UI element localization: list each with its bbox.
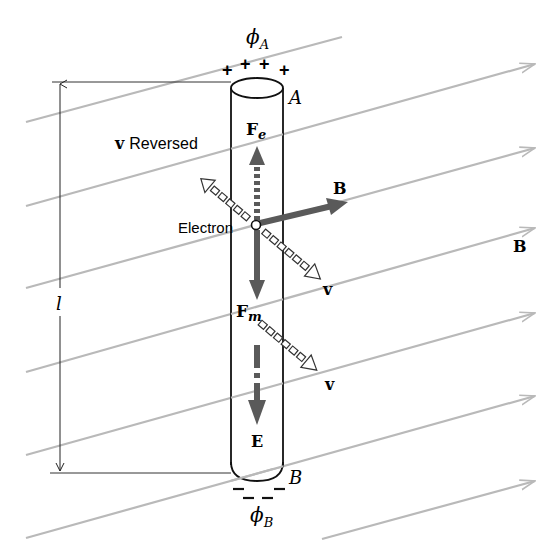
negative-charges: [233, 489, 285, 498]
electron-label: Electron: [178, 219, 233, 236]
field-line-7: [322, 481, 535, 539]
rod-top-end: [231, 78, 283, 98]
field-line-1: [26, 37, 342, 122]
e-field-label: E: [251, 432, 263, 451]
end-a-label: A: [287, 87, 302, 108]
end-b-label: B: [288, 467, 302, 488]
b-local-label: B: [333, 179, 347, 198]
field-line-front-6: [231, 466, 283, 481]
phi-b-label: ϕB: [250, 503, 273, 530]
svg-text:+: +: [259, 54, 270, 74]
v-upper-label: v: [322, 280, 333, 299]
positive-charges: + + + +: [222, 54, 290, 80]
svg-text:+: +: [222, 60, 233, 80]
v-lower-label: v: [324, 375, 335, 394]
svg-text:+: +: [240, 54, 251, 74]
svg-text:+: +: [279, 60, 290, 80]
electron-dot: [252, 221, 261, 230]
moving-conductor-diagram: l + + + + ϕA A ϕB B Fe: [0, 0, 556, 558]
phi-a-label: ϕA: [246, 25, 269, 52]
b-field-label: B: [513, 237, 527, 256]
v-reversed-label: vReversed: [114, 134, 198, 153]
length-label: l: [56, 293, 62, 314]
